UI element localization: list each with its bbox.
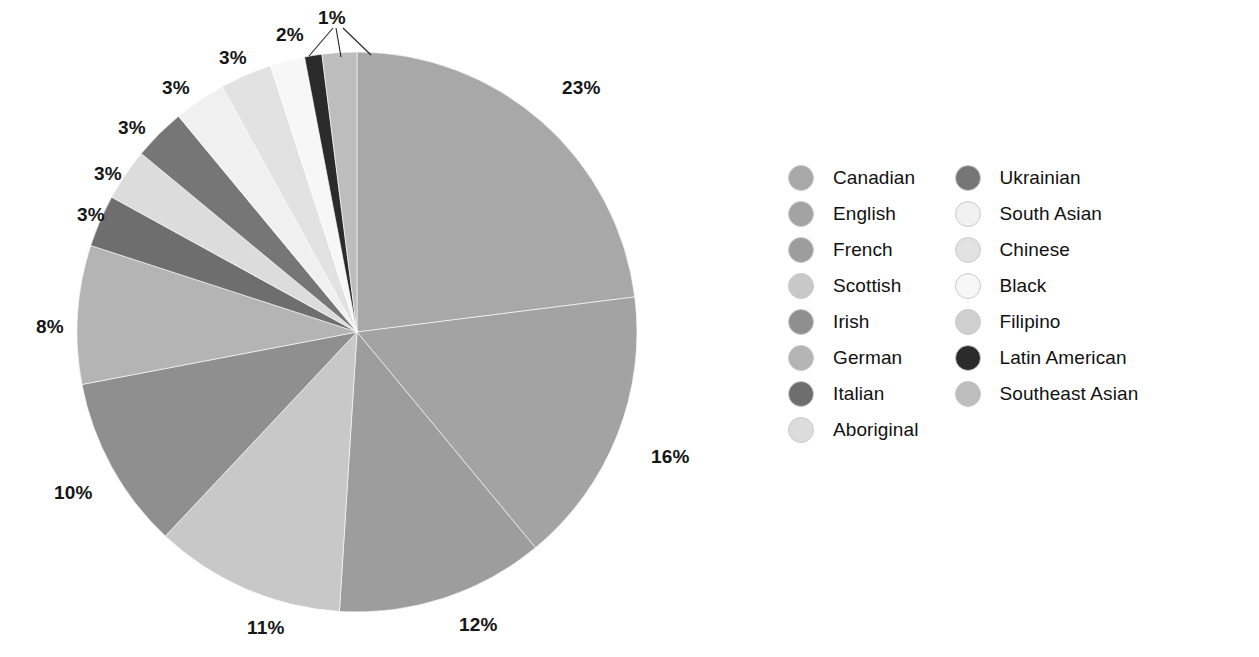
legend-swatch-icon bbox=[955, 237, 981, 263]
legend-swatch-icon bbox=[788, 381, 814, 407]
legend-swatch-icon bbox=[788, 309, 814, 335]
percent-label-english: 16% bbox=[651, 447, 690, 466]
legend-label: Black bbox=[1000, 275, 1047, 297]
legend-label: Aboriginal bbox=[833, 419, 919, 441]
legend-label: Southeast Asian bbox=[1000, 383, 1139, 405]
pie-chart: 23%16%12%11%10%8%3%3%3%3%3%2%1% bbox=[0, 0, 760, 657]
legend-item-black[interactable]: Black bbox=[955, 268, 1139, 304]
legend-label: Scottish bbox=[833, 275, 901, 297]
legend-column-left: CanadianEnglishFrenchScottishIrishGerman… bbox=[788, 160, 919, 448]
legend-label: German bbox=[833, 347, 902, 369]
legend-item-ukrainian[interactable]: Ukrainian bbox=[955, 160, 1139, 196]
legend-swatch-icon bbox=[788, 417, 814, 443]
legend-swatch-icon bbox=[955, 165, 981, 191]
legend-item-aboriginal[interactable]: Aboriginal bbox=[788, 412, 919, 448]
legend-swatch-icon bbox=[788, 201, 814, 227]
percent-label-scottish: 11% bbox=[247, 618, 285, 637]
percent-label-black: 2% bbox=[276, 25, 304, 44]
percent-label-irish: 10% bbox=[54, 483, 93, 502]
percent-label-latin-american: 1% bbox=[318, 8, 346, 27]
legend-swatch-icon bbox=[788, 237, 814, 263]
legend-column-right: UkrainianSouth AsianChineseBlackFilipino… bbox=[955, 160, 1139, 448]
percent-label-italian: 3% bbox=[77, 205, 105, 224]
legend-item-scottish[interactable]: Scottish bbox=[788, 268, 919, 304]
percent-label-german: 8% bbox=[36, 317, 64, 336]
legend-item-filipino[interactable]: Filipino bbox=[955, 304, 1139, 340]
legend-label: Ukrainian bbox=[1000, 167, 1081, 189]
legend-label: Filipino bbox=[1000, 311, 1061, 333]
legend-label: Canadian bbox=[833, 167, 915, 189]
legend-swatch-icon bbox=[955, 381, 981, 407]
legend-item-german[interactable]: German bbox=[788, 340, 919, 376]
percent-label-aboriginal: 3% bbox=[94, 164, 122, 183]
pie-slices-svg bbox=[0, 0, 760, 657]
percent-label-ukrainian: 3% bbox=[118, 118, 146, 137]
chart-canvas: 23%16%12%11%10%8%3%3%3%3%3%2%1% Canadian… bbox=[0, 0, 1259, 657]
percent-label-chinese: 3% bbox=[219, 48, 247, 67]
legend-label: South Asian bbox=[1000, 203, 1103, 225]
legend-item-italian[interactable]: Italian bbox=[788, 376, 919, 412]
legend-swatch-icon bbox=[788, 273, 814, 299]
legend-label: Irish bbox=[833, 311, 869, 333]
legend-label: Italian bbox=[833, 383, 884, 405]
legend-label: French bbox=[833, 239, 893, 261]
percent-label-south-asian: 3% bbox=[162, 78, 190, 97]
legend-item-southeast-asian[interactable]: Southeast Asian bbox=[955, 376, 1139, 412]
legend-swatch-icon bbox=[955, 201, 981, 227]
legend-swatch-icon bbox=[955, 273, 981, 299]
legend-item-chinese[interactable]: Chinese bbox=[955, 232, 1139, 268]
legend: CanadianEnglishFrenchScottishIrishGerman… bbox=[788, 160, 1254, 448]
legend-item-south-asian[interactable]: South Asian bbox=[955, 196, 1139, 232]
pie-slice-group bbox=[77, 52, 637, 612]
legend-label: Latin American bbox=[1000, 347, 1127, 369]
legend-item-canadian[interactable]: Canadian bbox=[788, 160, 919, 196]
legend-swatch-icon bbox=[788, 345, 814, 371]
percent-label-french: 12% bbox=[459, 615, 498, 634]
legend-swatch-icon bbox=[955, 345, 981, 371]
legend-item-irish[interactable]: Irish bbox=[788, 304, 919, 340]
legend-swatch-icon bbox=[788, 165, 814, 191]
legend-item-french[interactable]: French bbox=[788, 232, 919, 268]
legend-swatch-icon bbox=[955, 309, 981, 335]
legend-item-latin-american[interactable]: Latin American bbox=[955, 340, 1139, 376]
legend-label: English bbox=[833, 203, 896, 225]
percent-label-canadian: 23% bbox=[562, 78, 601, 97]
legend-item-english[interactable]: English bbox=[788, 196, 919, 232]
legend-label: Chinese bbox=[1000, 239, 1070, 261]
